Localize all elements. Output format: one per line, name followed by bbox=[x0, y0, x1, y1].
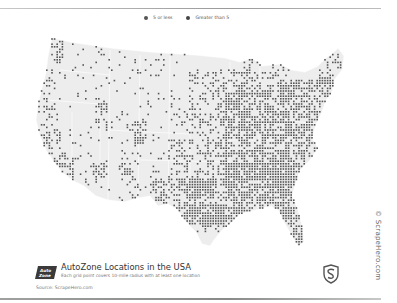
us-dot-map bbox=[0, 0, 397, 303]
infographic-frame: 5 or less Greater than 5 Auto Zone AutoZ… bbox=[0, 0, 397, 303]
chart-subtitle: Each grid point covers 10-mile radius wi… bbox=[61, 273, 200, 278]
scrapehero-shield-icon bbox=[322, 264, 340, 284]
source-note: Source: ScrapeHero.com bbox=[36, 285, 93, 290]
bottom-divider bbox=[0, 298, 381, 300]
svg-text:Zone: Zone bbox=[38, 273, 51, 278]
chart-title: AutoZone Locations in the USA bbox=[61, 262, 191, 272]
autozone-logo: Auto Zone bbox=[35, 264, 57, 277]
svg-text:Auto: Auto bbox=[39, 268, 51, 273]
scrapehero-credit: © ScrapeHero.com bbox=[374, 210, 382, 280]
